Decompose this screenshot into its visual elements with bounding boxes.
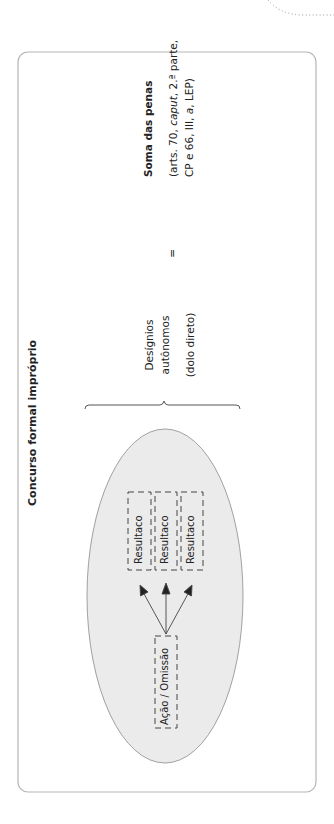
ref-text: , LEP) <box>183 78 195 108</box>
ref-text: , 2.ª parte, <box>167 40 179 96</box>
consequence-ref-line-2: CP e 66, III, a, LEP) <box>181 82 197 177</box>
ref-italic-text: a <box>183 108 195 114</box>
result-label-2: Resultaco <box>160 515 170 564</box>
source-label: Ação / Omissão <box>160 648 170 725</box>
condition-line-3: (dolo direto) <box>182 312 198 378</box>
consequence-ref-line-1: (arts. 70, caput, 2.ª parte, <box>165 82 181 177</box>
equals-sign: = <box>167 249 178 258</box>
ref-italic-text: caput <box>167 96 179 126</box>
condition-text: Desígnios autônomos (dolo direto) <box>141 312 198 378</box>
condition-line-1: Desígnios <box>141 312 157 378</box>
condition-line-2: autônomos <box>157 312 173 378</box>
ref-text: CP e 66, III, <box>183 114 195 177</box>
consequence-text: Soma das penas (arts. 70, caput, 2.ª par… <box>140 82 197 177</box>
ref-text: (arts. 70, <box>167 126 179 177</box>
consequence-heading: Soma das penas <box>140 82 156 177</box>
brace-icon <box>85 401 240 409</box>
result-label-3: Resultaco <box>186 515 196 564</box>
result-label-1: Resultaco <box>134 515 144 564</box>
decorative-dotted-curve <box>268 0 334 15</box>
diagram-title: Concurso formal impróprio <box>27 340 38 506</box>
